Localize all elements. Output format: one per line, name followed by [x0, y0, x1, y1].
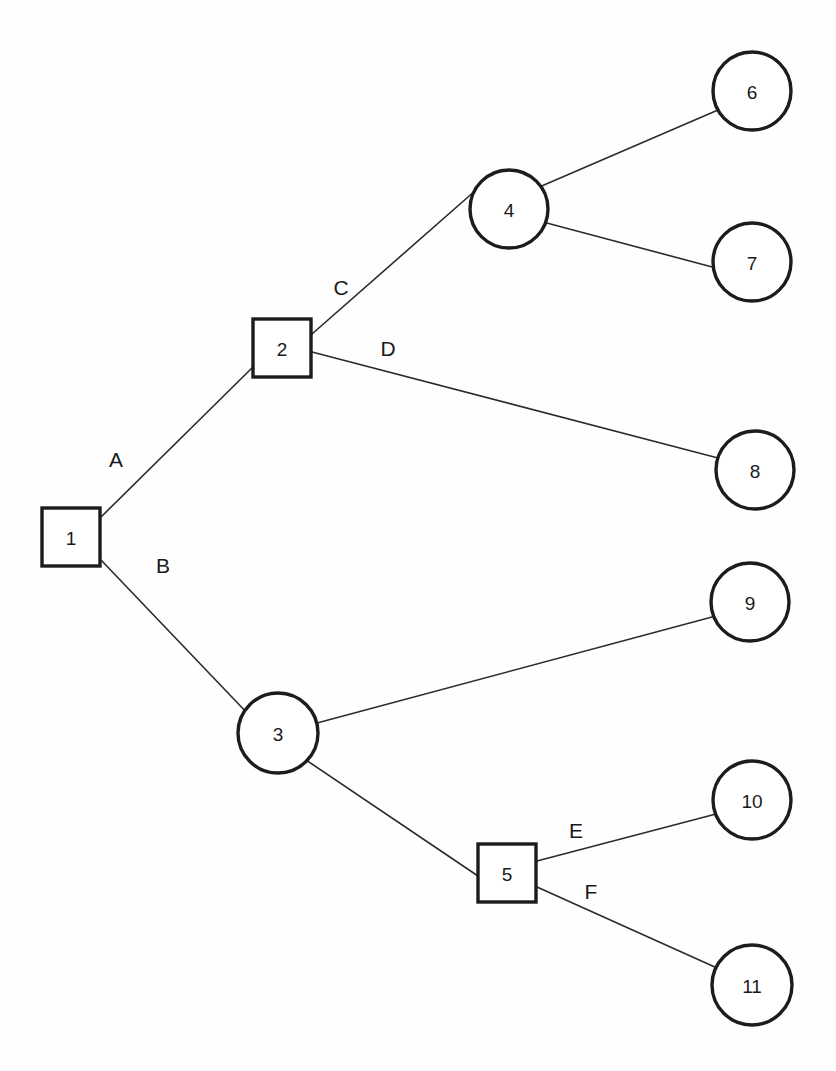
node-11[interactable]: 11	[712, 945, 792, 1025]
node-label-9: 9	[745, 593, 756, 614]
node-label-4: 4	[504, 200, 515, 221]
node-10[interactable]: 10	[713, 761, 791, 839]
edge-4-to-6[interactable]	[537, 110, 718, 188]
node-5[interactable]: 5	[478, 844, 536, 902]
node-label-2: 2	[277, 339, 288, 360]
node-label-6: 6	[747, 82, 758, 103]
edge-5-to-10[interactable]	[537, 814, 716, 861]
nodes-layer: 1234567891011	[42, 52, 794, 1025]
edge-1-to-2[interactable]	[101, 366, 254, 517]
node-9[interactable]: 9	[711, 563, 789, 641]
edge-2-to-4[interactable]	[312, 190, 476, 334]
edge-label-a: A	[109, 448, 123, 471]
node-2[interactable]: 2	[253, 319, 311, 377]
edge-label-e: E	[569, 819, 583, 842]
edge-2-to-8[interactable]	[312, 352, 718, 458]
edge-5-to-11[interactable]	[537, 887, 717, 968]
node-8[interactable]: 8	[716, 431, 794, 509]
node-label-8: 8	[750, 461, 761, 482]
node-label-11: 11	[742, 976, 762, 997]
node-label-10: 10	[741, 791, 762, 812]
edge-3-to-5[interactable]	[306, 760, 478, 876]
node-label-3: 3	[273, 724, 284, 745]
tree-canvas: 1234567891011 ABCDEF	[0, 0, 836, 1071]
edges-layer	[101, 110, 718, 968]
node-7[interactable]: 7	[713, 223, 791, 301]
edge-label-f: F	[585, 880, 598, 903]
node-label-5: 5	[502, 864, 513, 885]
edge-label-d: D	[380, 337, 395, 360]
node-label-1: 1	[66, 528, 77, 549]
decision-tree-diagram: 1234567891011 ABCDEF	[0, 0, 836, 1071]
node-3[interactable]: 3	[238, 693, 318, 773]
edge-label-b: B	[156, 554, 170, 577]
edge-3-to-9[interactable]	[317, 617, 712, 723]
node-label-7: 7	[747, 253, 758, 274]
node-1[interactable]: 1	[42, 508, 100, 566]
node-6[interactable]: 6	[713, 52, 791, 130]
node-4[interactable]: 4	[470, 170, 548, 248]
edge-labels-layer: ABCDEF	[109, 276, 597, 903]
edge-4-to-7[interactable]	[543, 222, 716, 268]
edge-1-to-3[interactable]	[101, 560, 250, 716]
edge-label-c: C	[333, 276, 348, 299]
